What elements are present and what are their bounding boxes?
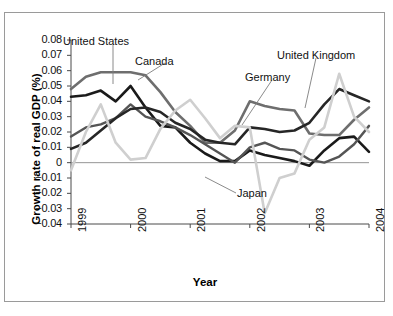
- y-tick-label: 0.08: [5, 33, 62, 45]
- y-tick-label: −0.01: [5, 171, 62, 183]
- data-series-group: [71, 72, 369, 213]
- y-tick-label: 0.03: [5, 110, 62, 122]
- x-tick-label: 2003: [314, 208, 326, 232]
- y-tick-label: −0.02: [5, 186, 62, 198]
- figure-container: Growth rate of real GDP (%) Year 0.080.0…: [0, 0, 393, 316]
- leader-line-united-kingdom: [305, 58, 316, 108]
- axis-lines: [71, 40, 369, 224]
- y-tick-label: 0: [5, 156, 62, 168]
- series-annotation-japan: Japan: [237, 187, 267, 199]
- x-tick-label: 1999: [76, 208, 88, 232]
- y-tick-label: 0.01: [5, 140, 62, 152]
- y-tick-label: −0.04: [5, 217, 62, 229]
- x-tick-label: 2001: [195, 208, 207, 232]
- x-tick-label: 2004: [374, 208, 386, 232]
- series-annotation-germany: Germany: [245, 71, 290, 83]
- chart-frame: Growth rate of real GDP (%) Year 0.080.0…: [4, 12, 385, 302]
- y-tick-label: 0.06: [5, 64, 62, 76]
- x-tick-label: 2002: [255, 208, 267, 232]
- y-tick-label: −0.03: [5, 202, 62, 214]
- y-axis-ticks: [67, 40, 71, 224]
- x-axis-title: Year: [125, 276, 285, 288]
- y-tick-label: 0.07: [5, 48, 62, 60]
- leader-line-germany: [242, 80, 272, 125]
- y-tick-label: 0.04: [5, 94, 62, 106]
- series-line-germany: [71, 104, 369, 162]
- y-tick-label: 0.05: [5, 79, 62, 91]
- x-tick-label: 2000: [136, 208, 148, 232]
- annotation-leader-lines: [113, 45, 316, 193]
- series-annotation-canada: Canada: [135, 55, 174, 67]
- series-line-canada: [71, 72, 369, 143]
- y-tick-label: 0.02: [5, 125, 62, 137]
- leader-line-japan: [205, 177, 236, 193]
- series-annotation-united-kingdom: United Kingdom: [277, 49, 355, 61]
- series-annotation-united-states: United States: [63, 35, 129, 47]
